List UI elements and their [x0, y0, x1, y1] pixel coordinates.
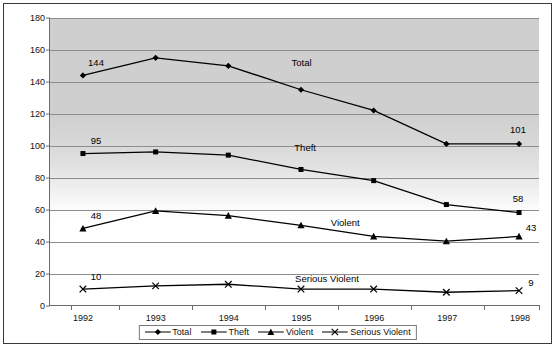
series-line: [83, 152, 519, 213]
data-label-violent-first: 48: [91, 211, 102, 221]
series-inline-label-theft: Theft: [294, 143, 316, 153]
data-point-marker: [226, 153, 231, 158]
x-axis-tick-label: 1997: [437, 314, 457, 323]
data-point-marker: [153, 149, 158, 154]
x-axis-tick-label: 1995: [291, 314, 311, 323]
data-label-serious-violent-last: 9: [528, 278, 533, 288]
x-axis-tick-label: 1994: [219, 314, 239, 323]
legend-item-violent[interactable]: Violent: [258, 327, 313, 337]
x-tick-mark: [71, 305, 72, 310]
series-theft: [80, 149, 521, 215]
x-tick-mark: [338, 305, 339, 310]
plot-area: 020406080100120140160180 199219931994199…: [49, 18, 539, 306]
x-axis-tick-label: 1993: [146, 314, 166, 323]
data-point-marker: [371, 107, 377, 113]
data-point-marker: [80, 72, 86, 78]
y-axis-tick-label: 40: [35, 238, 45, 247]
data-label-theft-first: 95: [91, 136, 102, 146]
data-point-marker: [516, 141, 522, 147]
legend-item-total[interactable]: Total: [144, 327, 191, 337]
data-point-marker: [517, 210, 522, 215]
data-point-marker: [371, 178, 376, 183]
y-axis-tick-label: 160: [30, 46, 45, 55]
data-point-marker: [153, 55, 159, 61]
data-label-theft-last: 58: [513, 194, 524, 204]
legend-item-theft[interactable]: Theft: [200, 327, 249, 337]
data-label-violent-last: 43: [526, 223, 537, 233]
data-point-marker: [225, 63, 231, 69]
data-point-marker: [443, 141, 449, 147]
y-axis-tick-label: 60: [35, 206, 45, 215]
x-tick-mark: [192, 305, 193, 310]
data-label-total-last: 101: [510, 126, 526, 136]
y-axis-tick-label: 0: [40, 302, 45, 311]
legend-label: Violent: [286, 328, 313, 337]
chart-root: 020406080100120140160180 199219931994199…: [0, 0, 557, 347]
series-inline-label-violent: Violent: [331, 218, 360, 228]
series-violent: [79, 207, 522, 244]
legend-square-marker-icon: [200, 327, 226, 337]
legend-label: Theft: [228, 328, 249, 337]
x-axis-tick-label: 1992: [73, 314, 93, 323]
data-point-marker: [444, 202, 449, 207]
data-label-total-first: 144: [88, 58, 104, 68]
data-point-marker: [80, 151, 85, 156]
legend-label: Total: [172, 328, 191, 337]
legend-triangle-marker-icon: [258, 327, 284, 337]
data-point-marker: [298, 167, 303, 172]
x-axis-tick-label: 1998: [510, 314, 530, 323]
y-axis-tick-label: 120: [30, 110, 45, 119]
x-tick-mark: [411, 305, 412, 310]
chart-legend: TotalTheftViolentSerious Violent: [138, 325, 416, 340]
y-tick-mark: [46, 306, 50, 307]
legend-cross-marker-icon: [322, 327, 348, 337]
series-inline-label-serious-violent: Serious Violent: [295, 274, 359, 284]
y-axis-tick-label: 100: [30, 142, 45, 151]
series-line: [83, 58, 519, 144]
legend-label: Serious Violent: [350, 328, 410, 337]
data-point-marker: [298, 87, 304, 93]
y-axis-tick-label: 140: [30, 78, 45, 87]
x-tick-mark: [119, 305, 120, 310]
y-axis-tick-label: 180: [30, 14, 45, 23]
chart-frame: 020406080100120140160180 199219931994199…: [3, 3, 552, 344]
x-axis-tick-label: 1996: [364, 314, 384, 323]
x-tick-mark: [484, 305, 485, 310]
legend-item-serious-violent[interactable]: Serious Violent: [322, 327, 410, 337]
data-label-serious-violent-first: 10: [91, 272, 102, 282]
x-tick-mark: [265, 305, 266, 310]
y-axis-tick-label: 20: [35, 270, 45, 279]
y-axis-tick-label: 80: [35, 174, 45, 183]
series-inline-label-total: Total: [291, 58, 311, 68]
x-tick-mark: [539, 305, 540, 310]
series-total: [80, 55, 522, 147]
legend-diamond-marker-icon: [144, 327, 170, 337]
